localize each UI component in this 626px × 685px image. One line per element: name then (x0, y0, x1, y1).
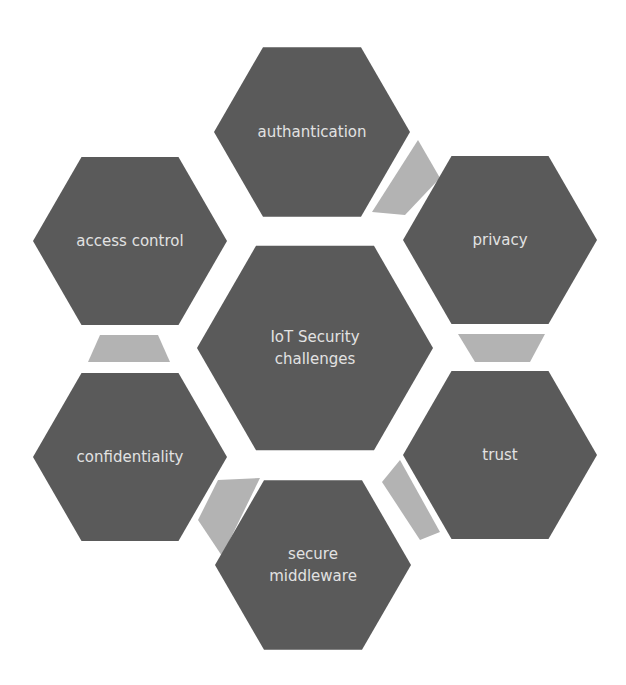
center-label: challenges (275, 350, 356, 368)
confidentiality-node: confidentiality (33, 373, 227, 541)
center-node: IoT Securitychallenges (197, 246, 433, 450)
center-label: IoT Security (270, 328, 359, 346)
trust-node: trust (403, 371, 597, 539)
confidentiality-label: confidentiality (77, 448, 184, 466)
secure-middleware-label: secure (288, 545, 338, 563)
access-control-label: access control (76, 232, 183, 250)
privacy-label: privacy (472, 231, 527, 249)
connector-access-control-to-confidentiality (88, 335, 170, 362)
secure-middleware-label: middleware (269, 567, 357, 585)
center-hexagon (197, 246, 433, 450)
access-control-node: access control (33, 157, 227, 325)
connector-privacy-to-trust (458, 334, 545, 362)
hexagon-diagram: IoT Securitychallengesauthanticationpriv… (0, 0, 626, 685)
authantication-label: authantication (257, 123, 366, 141)
trust-label: trust (482, 446, 517, 464)
authantication-node: authantication (214, 47, 410, 217)
